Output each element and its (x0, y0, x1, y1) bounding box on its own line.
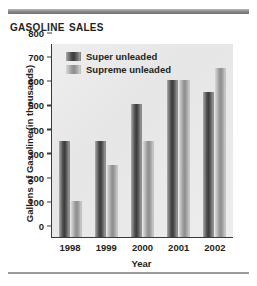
bar-2000-super[interactable] (131, 104, 142, 237)
x-tick-label: 2002 (204, 242, 225, 253)
legend-label: Super unleaded (86, 51, 157, 62)
bar-1999-super[interactable] (95, 141, 106, 238)
bar-2000-supreme[interactable] (143, 141, 154, 238)
bar-1998-super[interactable] (59, 141, 70, 238)
y-tick-label: 800 (28, 28, 47, 39)
y-tick-label: 200 (28, 172, 47, 183)
y-tick: 400 (28, 124, 52, 135)
page-title: Gasoline Sales (10, 18, 104, 34)
x-tick-label: 2000 (132, 242, 153, 253)
bar-2001-super[interactable] (167, 80, 178, 237)
y-tick: 300 (28, 148, 52, 159)
y-tick: 600 (28, 76, 52, 87)
y-tick: 200 (28, 172, 52, 183)
y-tick: 700 (28, 52, 52, 63)
title-band (8, 9, 249, 14)
bar-1998-supreme[interactable] (71, 201, 82, 237)
y-tick-label: 500 (28, 100, 47, 111)
x-tick-label: 2001 (168, 242, 189, 253)
bottom-divider (8, 272, 249, 274)
x-tick-label: 1999 (96, 242, 117, 253)
bar-1999-supreme[interactable] (107, 165, 118, 237)
y-tick: 100 (28, 196, 52, 207)
legend-swatch-supreme (66, 65, 81, 74)
y-tick-mark (47, 32, 52, 33)
y-tick-label: 700 (28, 52, 47, 63)
bar-2002-supreme[interactable] (215, 68, 226, 237)
bar-2002-super[interactable] (203, 92, 214, 237)
y-tick: 800 (28, 28, 52, 39)
y-tick-label: 300 (28, 148, 47, 159)
y-tick: 0 (39, 221, 52, 232)
bar-group (197, 44, 233, 237)
x-tick-label: 1998 (60, 242, 81, 253)
y-tick-label: 100 (28, 196, 47, 207)
legend: Super unleadedSupreme unleaded (66, 50, 171, 76)
legend-item[interactable]: Supreme unleaded (66, 63, 171, 75)
y-tick: 500 (28, 100, 52, 111)
x-axis-title: Year (51, 258, 232, 269)
y-tick-label: 400 (28, 124, 47, 135)
legend-item[interactable]: Super unleaded (66, 50, 171, 62)
y-tick-label: 0 (39, 221, 47, 232)
legend-swatch-super (66, 52, 81, 61)
y-tick-label: 600 (28, 76, 47, 87)
bar-2001-supreme[interactable] (179, 80, 190, 237)
legend-label: Supreme unleaded (86, 64, 171, 75)
